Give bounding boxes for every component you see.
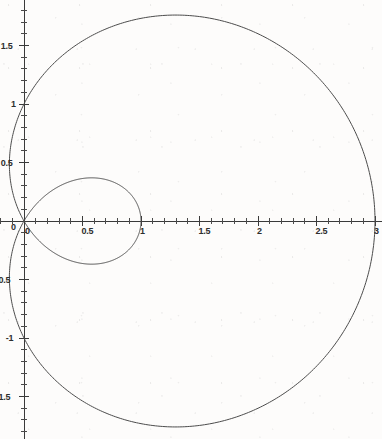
x-tick-label: 0.5 xyxy=(82,227,94,236)
x-tick-label: 2 xyxy=(257,227,262,236)
plot-canvas xyxy=(0,0,382,439)
y-tick-label: 1.5 xyxy=(1,42,13,51)
y-tick-label: -1.5 xyxy=(0,393,10,402)
y-tick-label: 0.5 xyxy=(1,159,13,168)
x-tick-label: 2.5 xyxy=(316,227,328,236)
y-tick-label: -1 xyxy=(6,334,14,343)
y-tick-label: 0 xyxy=(11,223,16,232)
y-tick-label: 1 xyxy=(11,100,16,109)
x-tick-label: 0 xyxy=(25,227,30,236)
ticks-group xyxy=(1,0,375,432)
x-tick-label: 3 xyxy=(374,227,379,236)
axes-group xyxy=(0,0,382,439)
polar-plot-figure: 00.511.522.53 1.510.50-0.5-1-1.5 xyxy=(0,0,382,439)
x-tick-label: 1 xyxy=(140,227,145,236)
y-tick-label: -0.5 xyxy=(0,276,10,285)
x-tick-label: 1.5 xyxy=(199,227,211,236)
